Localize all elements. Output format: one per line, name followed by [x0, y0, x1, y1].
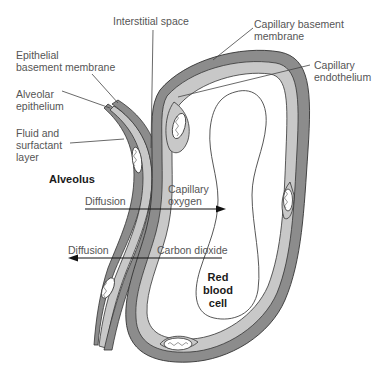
- label-interstitial-space: Interstitial space: [113, 15, 189, 27]
- label-capillary-endothelium: Capillary endothelium: [314, 59, 371, 83]
- label-diffusion-in: Diffusion: [85, 195, 126, 207]
- label-carbon-dioxide: Carbon dioxide: [157, 244, 228, 256]
- label-alveolar-epithelium: Alveolar epithelium: [16, 88, 64, 112]
- label-fluid-surfactant-layer: Fluid and surfactant layer: [16, 127, 62, 163]
- label-alveolus: Alveolus: [49, 173, 95, 186]
- label-capillary-basement-membrane: Capillary basement membrane: [254, 18, 344, 42]
- label-epithelial-basement-membrane: Epithelial basement membrane: [16, 49, 115, 73]
- label-capillary-oxygen: Capillary oxygen: [168, 183, 209, 207]
- label-diffusion-out: Diffusion: [68, 244, 109, 256]
- label-red-blood-cell: Red blood cell: [193, 271, 243, 310]
